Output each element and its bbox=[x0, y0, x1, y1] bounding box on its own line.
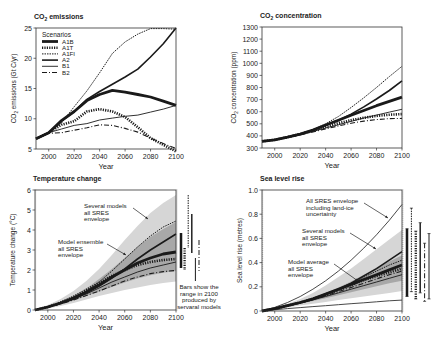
panel-title: CO2 emissions bbox=[34, 13, 84, 22]
y-tick-label: 20 bbox=[24, 55, 32, 62]
y-tick-label: 5 bbox=[27, 207, 31, 214]
annotation-several-models: envelope bbox=[302, 240, 328, 247]
y-tick-label: 300 bbox=[246, 145, 258, 152]
x-axis-label: Year bbox=[98, 323, 114, 332]
sea-level-rise-panel: Sea level rise200020202040206020802100Ye… bbox=[236, 175, 431, 333]
annotation-several-models: envelope bbox=[84, 215, 110, 222]
series-line-a1fi bbox=[36, 29, 176, 139]
legend-entry: B2 bbox=[62, 69, 70, 76]
x-tick-label: 2080 bbox=[143, 314, 159, 321]
x-tick-label: 2100 bbox=[394, 152, 410, 159]
x-tick-label: 2020 bbox=[66, 153, 82, 160]
y-tick-label: 800 bbox=[246, 84, 258, 91]
y-tick-label: 0 bbox=[27, 307, 31, 314]
x-tick-label: 2080 bbox=[369, 315, 385, 322]
y-axis-label: Temperature change (°C) bbox=[9, 213, 17, 286]
y-tick-label: 5 bbox=[28, 146, 32, 153]
annotation-land-ice: uncertainty bbox=[306, 210, 337, 217]
y-tick-label: 2 bbox=[27, 267, 31, 274]
y-tick-label: 0.6 bbox=[248, 235, 258, 242]
series-line-b1 bbox=[262, 109, 402, 141]
x-tick-label: 2100 bbox=[394, 315, 410, 322]
y-tick-label: 600 bbox=[246, 108, 258, 115]
panel-title: CO2 concentration bbox=[260, 12, 322, 21]
ipcc-projections-figure: CO2 emissions200020202040206020802100Yea… bbox=[0, 0, 444, 347]
y-axis-label: CO2 concentration (ppm) bbox=[230, 52, 239, 124]
x-tick-label: 2040 bbox=[92, 153, 108, 160]
x-tick-label: 2000 bbox=[267, 315, 283, 322]
y-tick-label: 900 bbox=[246, 72, 258, 79]
y-tick-label: 0.8 bbox=[248, 211, 258, 218]
x-tick-label: 2020 bbox=[66, 314, 82, 321]
series-line-b2 bbox=[36, 125, 176, 149]
x-tick-label: 2080 bbox=[369, 152, 385, 159]
y-tick-label: 1200 bbox=[242, 36, 258, 43]
y-tick-label: 25 bbox=[24, 25, 32, 32]
x-tick-label: 2020 bbox=[292, 152, 308, 159]
y-tick-label: 15 bbox=[24, 85, 32, 92]
y-tick-label: 3 bbox=[27, 247, 31, 254]
x-axis-label: Year bbox=[98, 162, 114, 171]
x-tick-label: 2060 bbox=[117, 314, 133, 321]
x-tick-label: 2100 bbox=[168, 314, 184, 321]
x-tick-label: 2060 bbox=[117, 153, 133, 160]
annotation-model-average: envelope bbox=[288, 271, 314, 278]
x-tick-label: 2060 bbox=[343, 315, 359, 322]
x-tick-label: 2080 bbox=[143, 153, 159, 160]
series-line-a1b bbox=[36, 90, 176, 138]
x-tick-label: 2000 bbox=[267, 152, 283, 159]
temperature-change-panel: Temperature change2000202020402060208021… bbox=[9, 175, 221, 332]
annotation-arrow bbox=[133, 208, 148, 219]
x-tick-label: 2020 bbox=[292, 315, 308, 322]
x-tick-label: 2060 bbox=[343, 152, 359, 159]
y-tick-label: 6 bbox=[27, 187, 31, 194]
y-tick-label: 0.2 bbox=[248, 283, 258, 290]
y-tick-label: 1.0 bbox=[248, 187, 258, 194]
co2-concentration-panel: CO2 concentration20002020204020602080210… bbox=[230, 12, 410, 170]
x-axis-label: Year bbox=[324, 161, 340, 170]
y-tick-label: 0.4 bbox=[248, 259, 258, 266]
y-axis-label: Sea level rise (metres) bbox=[236, 218, 244, 283]
y-tick-label: 1100 bbox=[243, 48, 258, 55]
x-tick-label: 2040 bbox=[318, 315, 334, 322]
annotation-bars-note: servaral models bbox=[177, 303, 221, 310]
x-tick-label: 2000 bbox=[41, 153, 57, 160]
y-tick-label: 4 bbox=[27, 227, 31, 234]
x-tick-label: 2000 bbox=[40, 314, 56, 321]
x-tick-label: 2040 bbox=[91, 314, 107, 321]
y-tick-label: 1 bbox=[27, 287, 31, 294]
y-axis-label: CO2 emissions (Gt C/yr) bbox=[10, 54, 19, 124]
x-axis-label: Year bbox=[324, 324, 340, 333]
series-line-a2 bbox=[262, 81, 402, 142]
annotation-arrow bbox=[364, 203, 388, 218]
co2-emissions-panel: CO2 emissions200020202040206020802100Yea… bbox=[10, 13, 184, 171]
y-tick-label: 1300 bbox=[242, 24, 258, 31]
panel-title: Sea level rise bbox=[260, 175, 304, 182]
y-tick-label: 1000 bbox=[242, 60, 258, 67]
y-tick-label: 400 bbox=[246, 132, 258, 139]
panel-title: Temperature change bbox=[33, 175, 101, 183]
y-tick-label: 500 bbox=[246, 120, 258, 127]
x-tick-label: 2040 bbox=[318, 152, 334, 159]
annotation-arrow bbox=[350, 233, 376, 249]
series-line-a2 bbox=[36, 28, 176, 139]
y-tick-label: 10 bbox=[24, 115, 32, 122]
annotation-model-ensemble: envelope bbox=[58, 251, 84, 258]
y-tick-label: 0 bbox=[254, 308, 258, 315]
y-tick-label: 700 bbox=[246, 96, 258, 103]
plot-frame bbox=[262, 27, 402, 148]
x-tick-label: 2100 bbox=[168, 153, 184, 160]
